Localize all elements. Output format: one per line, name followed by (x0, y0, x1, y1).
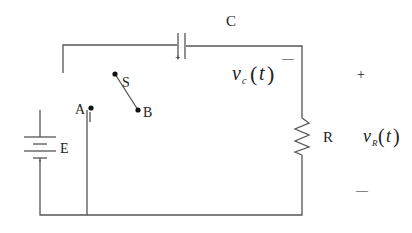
vr-paren-open: ( (378, 125, 385, 148)
rc-circuit-diagram: C + S A B E R v c ( t ) — + v R ( t ) — (0, 0, 412, 233)
vc-paren-close: ) (267, 61, 274, 86)
vc-minus-sign: — (281, 51, 295, 65)
vc-arg: t (259, 62, 265, 84)
vc-subscript: c (242, 75, 247, 86)
battery-label: E (60, 141, 69, 156)
switch-pivot-dot (112, 71, 117, 76)
vr-subscript: R (371, 138, 378, 148)
vr-minus-sign: — (355, 183, 369, 197)
capacitor-label: C (226, 13, 236, 29)
vr-paren-close: ) (393, 125, 400, 148)
resistor-voltage-expression: v R ( t ) (363, 125, 400, 148)
terminal-a-dot (88, 105, 93, 110)
vr-plus-sign: + (357, 67, 365, 82)
switch-label: S (122, 75, 130, 90)
wire-top-left (63, 45, 177, 73)
vc-paren-open: ( (250, 61, 257, 86)
vr-arg: t (386, 126, 392, 146)
resistor-zigzag (295, 118, 309, 155)
resistor-label: R (323, 129, 333, 145)
vc-symbol: v (232, 62, 241, 84)
wire-right-bottom (40, 155, 302, 215)
capacitor-polarity-mark: + (175, 52, 181, 63)
terminal-a-label: A (75, 102, 86, 117)
capacitor-voltage-expression: v c ( t ) (232, 61, 274, 86)
terminal-b-dot (135, 107, 140, 112)
terminal-b-label: B (143, 105, 152, 120)
vr-symbol: v (363, 126, 371, 146)
